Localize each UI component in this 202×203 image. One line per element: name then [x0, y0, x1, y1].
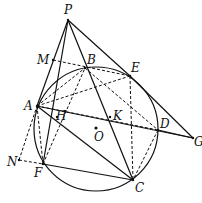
- segment-dc: [133, 130, 158, 180]
- segment-nf: [19, 160, 43, 164]
- diagram-shapes: [18, 19, 194, 191]
- point-labels: PMBEAHKODGNFC: [6, 3, 202, 195]
- label-c: C: [135, 181, 144, 195]
- label-d: D: [159, 117, 170, 131]
- label-a: A: [23, 99, 33, 113]
- label-b: B: [86, 53, 96, 67]
- point-c: [132, 179, 134, 181]
- label-m: M: [36, 53, 50, 67]
- point-p: [67, 19, 69, 21]
- point-a: [36, 105, 38, 107]
- point-b: [84, 67, 86, 69]
- label-e: E: [130, 61, 140, 75]
- point-e: [129, 75, 131, 77]
- geometry-diagram: PMBEAHKODGNFC: [0, 0, 202, 203]
- point-n: [18, 159, 20, 161]
- point-m: [52, 59, 54, 61]
- label-g: G: [194, 135, 202, 149]
- segment-pc: [68, 20, 133, 180]
- segment-fc: [43, 164, 133, 180]
- label-f: F: [33, 166, 43, 180]
- segment-ae: [37, 76, 130, 106]
- point-d: [157, 129, 159, 131]
- label-k: K: [112, 109, 123, 123]
- segment-ec: [130, 76, 133, 180]
- point-k: [109, 116, 111, 118]
- label-h: H: [55, 109, 67, 123]
- label-n: N: [6, 155, 18, 169]
- label-p: P: [63, 3, 73, 17]
- point-f: [42, 163, 44, 165]
- label-o: O: [94, 130, 104, 144]
- segment-dg: [158, 130, 193, 138]
